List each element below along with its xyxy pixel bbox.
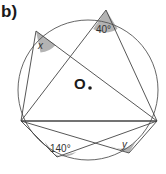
- chord-B-L: [21, 31, 36, 121]
- chord-A-R: [106, 10, 157, 121]
- circle-theorem-diagram: O x 40° 140° y: [0, 0, 166, 174]
- chord-P-R: [57, 121, 157, 157]
- angle-label-140: 140°: [50, 143, 71, 154]
- center-label: O: [74, 75, 86, 92]
- angle-label-y: y: [121, 139, 128, 150]
- angle-label-x: x: [37, 40, 44, 51]
- chords: [21, 10, 157, 157]
- chord-A-L: [21, 10, 106, 121]
- chord-B-R: [36, 31, 157, 121]
- center-dot: [88, 86, 92, 90]
- angle-label-40: 40°: [96, 24, 111, 35]
